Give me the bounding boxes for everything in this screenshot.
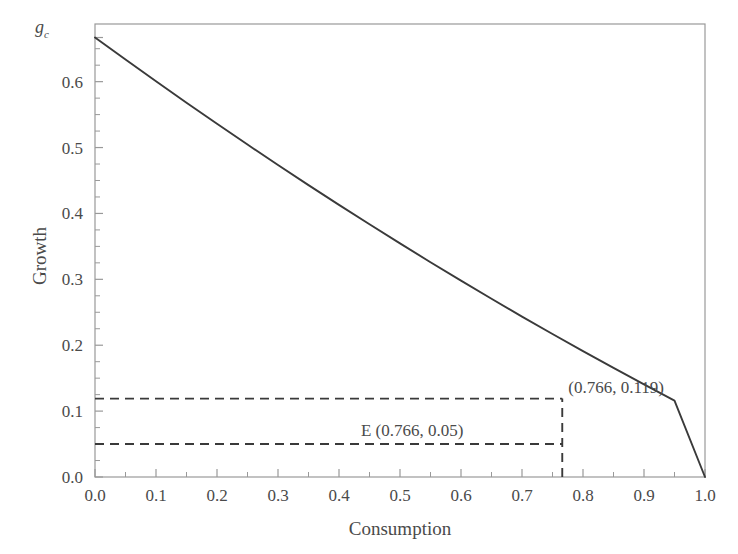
intersection-annotation: (0.766, 0.119)	[568, 379, 664, 396]
growth-consumption-chart: gc Growth Consumption 0.00.10.20.30.40.5…	[0, 0, 738, 554]
y-tick-label: 0.2	[62, 337, 83, 354]
y-tick-label: 0.6	[62, 73, 83, 90]
x-axis-title: Consumption	[349, 519, 451, 538]
x-tick-label: 0.8	[572, 487, 593, 504]
x-tick-label: 0.7	[511, 487, 532, 504]
x-tick-label: 0.1	[145, 487, 166, 504]
y-tick-label: 0.1	[62, 403, 83, 420]
x-tick-label: 0.9	[633, 487, 654, 504]
x-tick-label: 0.6	[450, 487, 471, 504]
y-tick-label: 0.5	[62, 139, 83, 156]
x-tick-label: 1.0	[694, 487, 715, 504]
x-tick-label: 0.4	[328, 487, 349, 504]
x-tick-label: 0.0	[84, 487, 105, 504]
x-tick-label: 0.2	[206, 487, 227, 504]
chart-plot-area	[0, 0, 738, 554]
x-tick-label: 0.3	[267, 487, 288, 504]
equilibrium-annotation: E (0.766, 0.05)	[361, 422, 463, 439]
y-axis-title: Growth	[30, 226, 49, 284]
guide-lines-group	[95, 399, 562, 477]
x-tick-label: 0.5	[389, 487, 410, 504]
growth-curve	[95, 38, 705, 477]
y-tick-label: 0.4	[62, 205, 83, 222]
y-tick-label: 0.3	[62, 271, 83, 288]
plot-frame	[95, 24, 705, 477]
y-tick-label: 0.0	[62, 469, 83, 486]
y-axis-major-ticks	[95, 38, 103, 477]
gc-axis-symbol-label: gc	[35, 18, 49, 40]
